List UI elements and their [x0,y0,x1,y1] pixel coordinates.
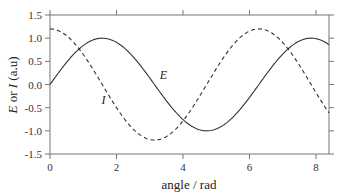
x-tick-label: 6 [247,161,253,173]
series-i-line [50,29,329,140]
y-tick-labels: -1.5-1.0-0.50.00.51.01.5 [25,9,43,160]
x-tick-label: 2 [114,161,120,173]
x-axis-title: angle / rad [162,177,217,192]
line-chart: 02468 -1.5-1.0-0.50.00.51.01.5 E I angle… [0,0,341,195]
y-tick-label: 1.5 [28,9,42,21]
y-tick-label: -1.5 [25,148,43,160]
series-label-i: I [101,93,107,107]
y-tick-label: 0.0 [28,79,42,91]
y-tick-label: -1.0 [25,125,43,137]
axis-ticks [45,10,334,159]
x-tick-label: 4 [180,161,186,173]
y-tick-label: 0.5 [28,55,42,67]
series-label-e: E [159,68,168,82]
x-tick-label: 8 [313,161,319,173]
y-tick-label: 1.0 [28,32,42,44]
y-axis-title: E or I (a.u) [5,56,20,114]
y-tick-label: -0.5 [25,102,43,114]
x-tick-labels: 02468 [47,161,319,173]
series-e-line [50,38,329,131]
x-tick-label: 0 [47,161,53,173]
plot-frame [50,15,329,154]
